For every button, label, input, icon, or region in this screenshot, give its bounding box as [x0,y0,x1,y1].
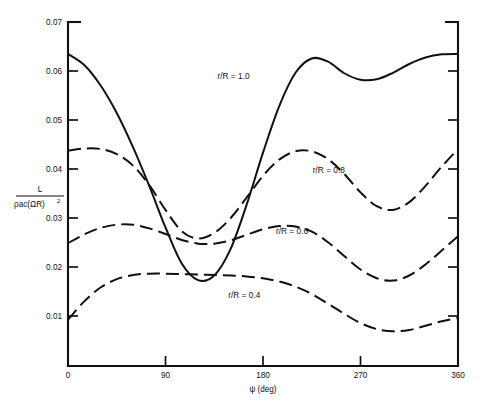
series-line-r-R-1-0 [68,54,458,281]
x-tick-label: 0 [66,371,71,380]
y-axis-title-denominator: ρac(ΩR) [14,200,45,209]
series-line-r-R-0-4 [68,274,458,332]
x-axis-title-text: ψ (deg) [249,385,276,394]
series-paths [68,54,458,332]
y-axis-ticks: 0.07 0.06 0.05 0.04 0.03 0.02 0.01 [46,18,78,321]
y-tick-label: 0.04 [46,165,62,174]
chart-figure: 0.07 0.06 0.05 0.04 0.03 0.02 0.01 [0,0,489,416]
x-tick-label: 90 [161,371,171,380]
y-tick-label: 0.01 [46,312,62,321]
series-label-r-R-0-4: r/R = 0.4 [228,290,260,300]
x-axis-title: ψ (deg) [249,385,276,394]
series-line-r-R-0-6 [68,224,458,280]
y-tick-label: 0.05 [46,116,62,125]
x-tick-label: 270 [354,371,368,380]
series-label-r-R-1-0: r/R = 1.0 [218,71,250,81]
y-tick-label: 0.07 [46,18,62,27]
x-tick-label: 360 [451,371,465,380]
axis-frame [68,22,458,366]
series-label-r-R-0-8: r/R = 0.8 [313,165,345,175]
y-axis-title-exponent: 2 [57,198,61,204]
line-chart-svg: 0.07 0.06 0.05 0.04 0.03 0.02 0.01 [0,0,489,416]
series-label-r-R-0-6: r/R = 0.6 [276,226,308,236]
y-tick-label: 0.06 [46,67,62,76]
x-tick-label: 180 [256,371,270,380]
y-tick-label: 0.03 [46,214,62,223]
right-axis-ticks [448,71,458,316]
x-axis-ticks: 0 90 180 270 360 [66,356,466,380]
y-axis-title: L ρac(ΩR) 2 [14,185,64,209]
series-annotations: r/R = 1.0 r/R = 0.8 r/R = 0.6 r/R = 0.4 [218,71,346,300]
y-tick-label: 0.02 [46,263,62,272]
y-axis-title-numerator: L [38,185,43,194]
